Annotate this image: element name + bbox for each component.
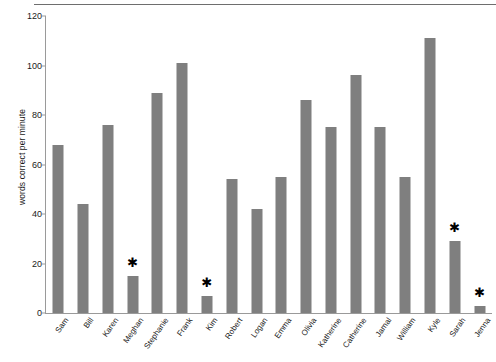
x-axis-tick-label: Frank: [176, 316, 195, 338]
figure-top-rule: [34, 4, 496, 5]
x-axis-labels: SamBillKarenMeghanStephanieFrankKimRober…: [46, 316, 492, 362]
asterisk-marker-icon: ✱: [127, 258, 138, 267]
x-axis-tick-label: Emma: [273, 316, 294, 340]
bar[interactable]: [449, 241, 460, 313]
asterisk-marker-icon: ✱: [202, 278, 213, 287]
bar-chart: words correct per minute 020406080100120…: [0, 0, 496, 362]
x-axis-tick-label: Catherine: [341, 316, 368, 350]
bar[interactable]: [78, 204, 89, 313]
bar[interactable]: [425, 38, 436, 313]
x-axis-tick-label: Sam: [54, 316, 71, 335]
bar-slot: [46, 16, 71, 313]
bar-slot: ✱: [120, 16, 145, 313]
bar[interactable]: [474, 306, 485, 313]
x-axis-tick-label: Kyle: [426, 316, 442, 334]
y-axis-title: words correct per minute: [17, 57, 27, 257]
x-axis-line: [45, 313, 492, 314]
bar[interactable]: [400, 177, 411, 313]
bar-slot: [170, 16, 195, 313]
x-axis-tick-label: Meghan: [121, 316, 145, 345]
bar-slot: [393, 16, 418, 313]
bar-slot: [71, 16, 96, 313]
bar[interactable]: [102, 125, 113, 313]
bar[interactable]: [127, 276, 138, 313]
bars-layer: ✱✱✱✱: [46, 16, 492, 313]
y-axis-tick-label: 120: [27, 11, 42, 21]
y-axis-tick-label: 20: [32, 259, 42, 269]
bar-slot: [219, 16, 244, 313]
x-axis-tick-label: Logan: [249, 316, 269, 339]
bar-slot: [244, 16, 269, 313]
bar[interactable]: [53, 145, 64, 313]
y-axis-tick-label: 40: [32, 209, 42, 219]
bar-slot: [368, 16, 393, 313]
bar[interactable]: [152, 93, 163, 313]
bar[interactable]: [226, 179, 237, 313]
bar-slot: [269, 16, 294, 313]
bar[interactable]: [301, 100, 312, 313]
bar-slot: ✱: [442, 16, 467, 313]
x-axis-tick-label: Jamal: [373, 316, 393, 339]
bar-slot: [294, 16, 319, 313]
bar-slot: [319, 16, 344, 313]
x-axis-tick-label: Katherine: [316, 316, 343, 349]
bar-slot: ✱: [467, 16, 492, 313]
y-axis-tick-label: 60: [32, 160, 42, 170]
bar[interactable]: [375, 127, 386, 313]
x-axis-tick-label: Robert: [223, 316, 244, 341]
bar-slot: [343, 16, 368, 313]
x-axis-tick-label: Sarah: [448, 316, 468, 339]
x-axis-tick-label: William: [395, 316, 417, 342]
bar-slot: [145, 16, 170, 313]
x-axis-tick-label: Bill: [82, 316, 95, 330]
bar[interactable]: [350, 75, 361, 313]
bar[interactable]: [177, 63, 188, 313]
asterisk-marker-icon: ✱: [474, 288, 485, 297]
bar[interactable]: [202, 296, 213, 313]
bar[interactable]: [325, 127, 336, 313]
x-axis-tick-label: Jenna: [472, 316, 492, 339]
bar[interactable]: [251, 209, 262, 313]
y-axis-tick-label: 80: [32, 110, 42, 120]
bar-slot: [418, 16, 443, 313]
x-axis-tick-label: Kim: [204, 316, 219, 332]
x-axis-tick-label: Stephanie: [142, 316, 170, 351]
asterisk-marker-icon: ✱: [449, 223, 460, 232]
y-axis-tick-label: 100: [27, 61, 42, 71]
x-axis-tick-label: Olivia: [300, 316, 319, 338]
bar-slot: [96, 16, 121, 313]
bar-slot: ✱: [195, 16, 220, 313]
x-axis-tick-label: Karen: [101, 316, 121, 339]
bar[interactable]: [276, 177, 287, 313]
